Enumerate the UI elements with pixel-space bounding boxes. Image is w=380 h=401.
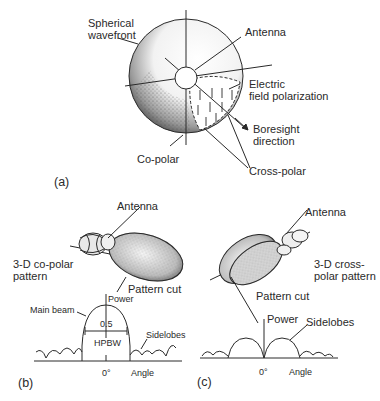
figure-canvas [0, 0, 380, 401]
label-angle-b: Angle [131, 368, 154, 378]
label-line: Electric [249, 78, 329, 90]
label-pattern-cut-b: Pattern cut [128, 283, 181, 295]
label-half-power: 0.5 [100, 319, 113, 329]
label-line: field polarization [249, 90, 329, 102]
label-3d-crosspolar: 3-D cross- polar pattern [314, 258, 376, 282]
panel-tag-c: (c) [197, 376, 212, 388]
label-sidelobes-c: Sidelobes [306, 316, 354, 328]
label-line: 3-D co-polar [13, 258, 74, 270]
label-boresight: Boresight direction [253, 123, 299, 147]
crosspolar-3d-pattern [210, 210, 310, 323]
label-main-beam: Main beam [30, 305, 75, 315]
label-angle-c: Angle [289, 367, 312, 377]
panel-tag-b: (b) [18, 377, 33, 389]
label-line: wavefront [88, 29, 136, 41]
label-spherical-wavefront: Spherical wavefront [88, 17, 136, 41]
label-pattern-cut-c: Pattern cut [256, 290, 309, 302]
copolar-3d-pattern [70, 207, 189, 292]
label-line: Boresight [253, 123, 299, 135]
label-antenna-c: Antenna [305, 206, 346, 218]
label-power-b: Power [108, 294, 134, 304]
label-line: polar pattern [314, 270, 376, 282]
label-electric-field: Electric field polarization [249, 78, 329, 102]
label-line: pattern [13, 270, 74, 282]
label-hpbw: HPBW [94, 338, 121, 348]
label-sidelobes-b: Sidelobes [146, 330, 186, 340]
label-cross-polar: Cross-polar [249, 165, 306, 177]
label-antenna-a: Antenna [245, 26, 286, 38]
label-power-c: Power [267, 313, 298, 325]
label-co-polar: Co-polar [137, 153, 179, 165]
panel-tag-a: (a) [54, 176, 69, 188]
label-line: Spherical [88, 17, 136, 29]
label-3d-copolar: 3-D co-polar pattern [13, 258, 74, 282]
label-zero-c: 0° [259, 367, 268, 377]
label-line: 3-D cross- [314, 258, 376, 270]
label-antenna-b: Antenna [117, 200, 158, 212]
label-zero-b: 0° [102, 368, 111, 378]
label-line: direction [253, 135, 299, 147]
